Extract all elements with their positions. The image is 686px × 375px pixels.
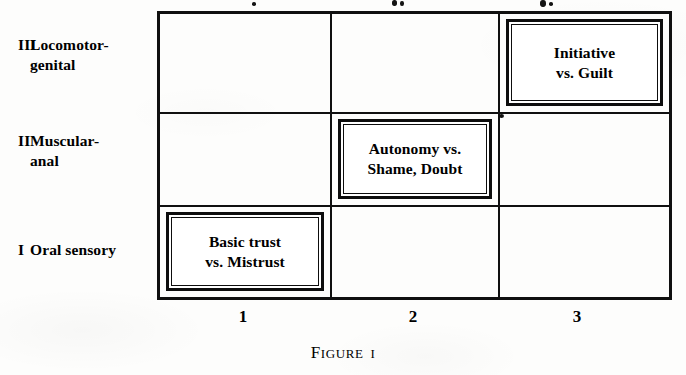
figure-caption-word: FIGURE — [311, 343, 364, 362]
figure-caption-number: I — [370, 346, 375, 361]
row-numeral-iii: III — [0, 35, 30, 55]
row-numeral-i: I — [0, 240, 30, 260]
column-number-3: 3 — [557, 307, 597, 327]
ink-blob-artifact — [499, 114, 504, 118]
figure-page: IIILocomotor- genital IIMuscular- anal I… — [0, 0, 686, 375]
row-name-iii: Locomotor- genital — [30, 35, 109, 75]
row-label-stage-ii: IIMuscular- anal — [0, 131, 150, 171]
row-name-ii: Muscular- anal — [30, 131, 99, 171]
grid-cell-r2-c3 — [500, 114, 669, 207]
stage-box-inner: Basic trust vs. Mistrust — [171, 217, 319, 286]
stage-box-autonomy-vs-shame-doubt: Autonomy vs. Shame, Doubt — [338, 119, 492, 199]
stage-box-basic-trust-vs-mistrust: Basic trust vs. Mistrust — [166, 212, 324, 291]
column-number-1: 1 — [223, 307, 263, 327]
stage-label-initiative-vs-guilt: Initiative vs. Guilt — [550, 43, 619, 83]
stage-box-initiative-vs-guilt: Initiative vs. Guilt — [506, 19, 663, 106]
row-label-stage-iii: IIILocomotor- genital — [0, 35, 150, 75]
stage-box-inner: Autonomy vs. Shame, Doubt — [343, 124, 487, 194]
column-number-2: 2 — [393, 307, 433, 327]
row-label-stage-i: IOral sensory — [0, 240, 150, 260]
grid-cell-r1-c1: Basic trust vs. Mistrust — [160, 207, 332, 297]
grid-cell-r3-c2 — [332, 14, 500, 114]
figure-caption: FIGUREI — [0, 343, 686, 363]
stage-label-autonomy-vs-shame-doubt: Autonomy vs. Shame, Doubt — [363, 139, 466, 179]
grid-cell-r1-c2 — [332, 207, 500, 297]
grid-cell-r1-c3 — [500, 207, 669, 297]
stage-box-inner: Initiative vs. Guilt — [511, 24, 658, 101]
grid-cell-r3-c1 — [160, 14, 332, 114]
row-name-i: Oral sensory — [30, 240, 116, 260]
row-numeral-ii: II — [0, 131, 30, 151]
grid-cell-r3-c3: Initiative vs. Guilt — [500, 14, 669, 114]
grid-cell-r2-c1 — [160, 114, 332, 207]
cropped-headline-descenders — [0, 0, 686, 9]
stage-grid: Initiative vs. Guilt Autonomy vs. Shame,… — [157, 11, 672, 300]
stage-label-basic-trust-vs-mistrust: Basic trust vs. Mistrust — [201, 232, 289, 272]
grid-cell-r2-c2: Autonomy vs. Shame, Doubt — [332, 114, 500, 207]
